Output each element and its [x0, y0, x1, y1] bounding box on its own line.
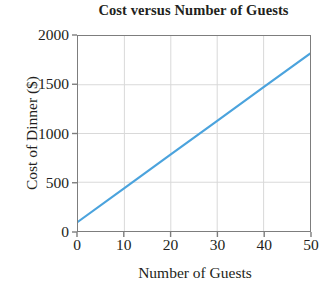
chart-figure: Cost versus Number of Guests Cost of Din… [0, 0, 325, 290]
x-tick-label: 40 [244, 237, 284, 253]
x-tick-label: 0 [57, 237, 97, 253]
x-tick-label: 50 [291, 237, 325, 253]
x-tick-label: 10 [104, 237, 144, 253]
x-tick-label: 30 [197, 237, 237, 253]
x-axis-tick-labels: 01020304050 [0, 0, 325, 290]
x-tick-label: 20 [151, 237, 191, 253]
